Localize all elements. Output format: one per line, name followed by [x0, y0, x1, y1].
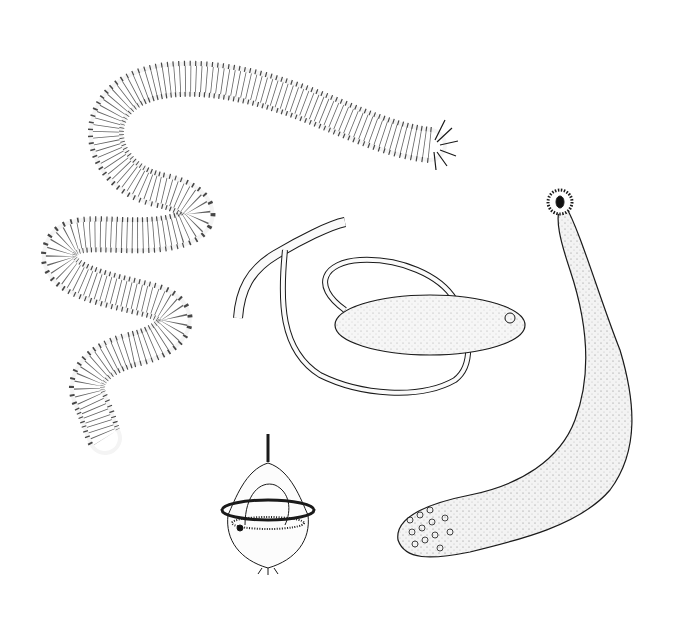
worm-illustration: [0, 0, 685, 632]
echiuran-worm: [238, 222, 525, 393]
mouth-crown-icon: [556, 196, 564, 208]
trochophore-larva: [222, 434, 314, 575]
polychaete-worm: [59, 79, 458, 438]
illustration-canvas: [0, 0, 685, 632]
priapulid-worm: [398, 190, 632, 557]
